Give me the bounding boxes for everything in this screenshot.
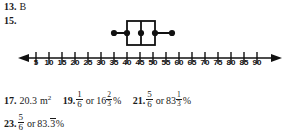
axis-tick-label-70: 70 — [201, 58, 210, 67]
axis-tick-label-10: 10 — [45, 58, 54, 67]
axis-tick-label-group: 5 10 15 20 25 30 35 40 45 50 55 60 65 70… — [0, 58, 284, 72]
minimum-point-marker — [111, 30, 117, 36]
answer-item-21-percent-whole: 83 — [166, 95, 176, 106]
answer-item-13-value: B — [20, 1, 27, 12]
axis-tick-label-50: 50 — [149, 58, 158, 67]
axis-tick-label-65: 65 — [188, 58, 197, 67]
answer-item-21-fraction: 56 — [146, 90, 153, 110]
answer-item-19-percent-symbol: % — [113, 95, 121, 106]
answer-item-21-number: 21. — [133, 95, 146, 106]
answer-item-21-connector: or — [156, 95, 164, 106]
axis-tick-label-45: 45 — [136, 58, 145, 67]
answer-item-17-unit: m — [40, 95, 48, 106]
axis-tick-label-35: 35 — [110, 58, 119, 67]
answer-item-19: 19.16or1623% — [63, 90, 121, 110]
answer-item-23-fraction-denominator: 6 — [18, 123, 25, 132]
q1-point-marker — [124, 30, 130, 36]
boxplot-figure: 5 10 15 20 25 30 35 40 45 50 55 60 65 70… — [0, 12, 284, 74]
answer-item-19-fraction: 16 — [76, 90, 83, 110]
answer-item-21: 21.56or8313% — [133, 90, 191, 110]
answer-key-page: 13.B 15. — [0, 0, 284, 137]
answer-item-21-percent-fraction: 13 — [176, 91, 182, 108]
answer-item-13-number: 13. — [4, 1, 17, 12]
q3-point-marker — [152, 30, 158, 36]
answer-row-17-21: 17.20.3m2 19.16or1623% 21.56or8313% — [4, 90, 191, 110]
answer-item-23-percent-decimal: 83. — [37, 118, 50, 129]
answer-item-23-percent-symbol: % — [56, 118, 64, 129]
axis-tick-label-85: 85 — [240, 58, 249, 67]
axis-tick-label-5: 5 — [34, 58, 38, 67]
answer-item-23: 23.56or83.3% — [4, 113, 64, 133]
axis-tick-label-90: 90 — [253, 58, 262, 67]
answer-row-23: 23.56or83.3% — [4, 113, 64, 133]
maximum-point-marker — [169, 30, 175, 36]
answer-item-19-fraction-denominator: 6 — [76, 100, 83, 109]
axis-tick-label-25: 25 — [84, 58, 93, 67]
answer-item-19-percent-whole: 16 — [96, 95, 106, 106]
answer-item-21-percent: 8313% — [166, 91, 191, 108]
answer-item-23-fraction: 56 — [18, 113, 25, 133]
answer-item-23-connector: or — [27, 118, 35, 129]
answer-item-19-connector: or — [86, 95, 94, 106]
answer-item-17-number: 17. — [4, 95, 17, 106]
axis-tick-label-75: 75 — [214, 58, 223, 67]
median-point-marker — [138, 30, 144, 36]
answer-item-19-percent-fraction-denominator: 3 — [106, 100, 112, 108]
axis-tick-label-15: 15 — [58, 58, 67, 67]
answer-item-19-percent: 1623% — [96, 91, 121, 108]
answer-item-21-fraction-denominator: 6 — [146, 100, 153, 109]
answer-item-23-number: 23. — [4, 118, 17, 129]
axis-tick-label-55: 55 — [162, 58, 171, 67]
axis-tick-label-60: 60 — [175, 58, 184, 67]
axis-tick-label-80: 80 — [227, 58, 236, 67]
answer-item-19-number: 19. — [63, 95, 76, 106]
answer-item-17: 17.20.3m2 — [4, 95, 51, 106]
axis-tick-label-30: 30 — [97, 58, 106, 67]
answer-item-19-percent-fraction: 23 — [106, 91, 112, 108]
axis-tick-label-20: 20 — [71, 58, 80, 67]
box-and-whisker — [111, 21, 175, 45]
answer-item-17-unit-exponent: 2 — [48, 93, 52, 101]
axis-tick-label-40: 40 — [123, 58, 132, 67]
answer-item-21-percent-symbol: % — [183, 95, 191, 106]
answer-item-17-value: 20.3 — [20, 95, 38, 106]
answer-item-21-percent-fraction-denominator: 3 — [176, 100, 182, 108]
